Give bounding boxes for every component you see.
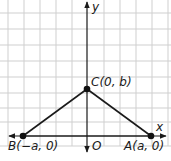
segment-bc <box>23 89 87 136</box>
segment-ca <box>87 89 151 136</box>
x-axis-label: x <box>155 120 164 134</box>
point-c-label: C(0, b) <box>91 75 132 89</box>
grid <box>0 0 171 146</box>
point-c <box>84 86 91 93</box>
coordinate-diagram: y x O C(0, b) B(−a, 0) A(a, 0) <box>0 0 171 161</box>
y-axis-label: y <box>91 0 100 14</box>
point-a-label: A(a, 0) <box>123 139 164 153</box>
point-b-label: B(−a, 0) <box>8 139 58 153</box>
origin-label: O <box>92 139 101 153</box>
